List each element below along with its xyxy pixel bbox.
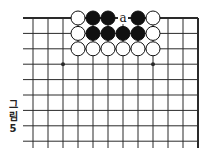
star-point-icon xyxy=(61,62,65,66)
black-stone-icon xyxy=(131,26,145,40)
black-stone-icon xyxy=(131,11,145,25)
point-label-a: a xyxy=(119,11,126,25)
point-labels: a xyxy=(118,11,128,25)
black-stone-icon xyxy=(101,26,115,40)
white-stone-icon xyxy=(86,42,100,56)
white-stone-icon xyxy=(71,26,85,40)
white-stone-icon xyxy=(116,42,130,56)
caption-char-3: 5 xyxy=(5,123,21,135)
white-stone-icon xyxy=(71,42,85,56)
white-stone-icon xyxy=(101,42,115,56)
black-stone-icon xyxy=(116,26,130,40)
black-stone-icon xyxy=(86,26,100,40)
white-stone-icon xyxy=(146,42,160,56)
caption-char-2: 림 xyxy=(5,111,21,123)
white-stone-icon xyxy=(146,26,160,40)
star-point-icon xyxy=(151,62,155,66)
white-stone-icon xyxy=(71,11,85,25)
white-stone-icon xyxy=(146,11,160,25)
white-stone-icon xyxy=(131,42,145,56)
black-stone-icon xyxy=(86,11,100,25)
figure-caption: 그 림 5 xyxy=(5,99,21,135)
caption-char-1: 그 xyxy=(5,99,21,111)
go-board: a xyxy=(0,0,213,160)
black-stone-icon xyxy=(101,11,115,25)
